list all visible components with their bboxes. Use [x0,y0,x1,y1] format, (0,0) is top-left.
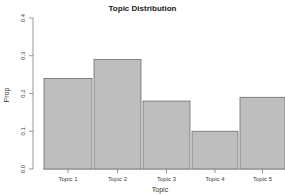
bar-topic-4 [192,131,238,169]
y-tick-label: 0.1 [20,126,26,135]
y-tick-label: 0.3 [20,51,26,60]
x-tick-label: Topic 4 [205,176,225,182]
x-tick-label: Topic 1 [58,176,78,182]
x-tick-label: Topic 2 [108,176,128,182]
bar-topic-2 [94,60,141,169]
bar-topic-5 [240,97,285,169]
y-tick-label: 0.4 [20,13,26,22]
x-axis-title: Topic [152,186,169,194]
y-tick-label: 0.0 [20,164,26,173]
chart-title: Topic Distribution [109,4,177,13]
y-tick-label: 0.2 [20,89,26,98]
bar-chart: Topic Distribution 0.4 0.3 0.2 0.1 0.0 P… [0,0,285,194]
bar-topic-1 [44,78,92,169]
bar-topic-3 [143,101,190,169]
x-tick-label: Topic 3 [157,176,177,182]
x-tick-label: Topic 5 [253,176,273,182]
y-axis-title: Prop [3,88,11,103]
